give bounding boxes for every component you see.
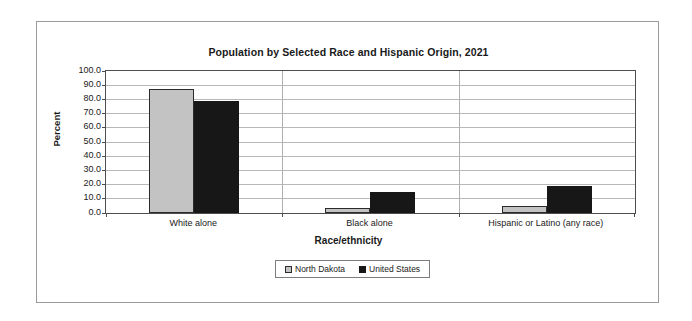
bars-layer <box>106 71 635 213</box>
x-axis-tick-mark <box>106 213 107 217</box>
plot-area <box>105 70 636 214</box>
y-axis-tick-label: 20.0 <box>59 179 101 188</box>
y-axis-tick-label: 100.0 <box>59 65 101 74</box>
bar <box>149 89 194 212</box>
y-axis-tick-label: 10.0 <box>59 193 101 202</box>
y-axis-tick-label: 40.0 <box>59 150 101 159</box>
y-axis-tick-label: 90.0 <box>59 79 101 88</box>
chart-title: Population by Selected Race and Hispanic… <box>37 46 660 58</box>
x-axis-tick-label: White alone <box>169 218 217 228</box>
y-axis-tick-label: 70.0 <box>59 108 101 117</box>
legend-label: North Dakota <box>295 264 345 274</box>
y-axis-tick-label: 60.0 <box>59 122 101 131</box>
x-axis-tick-labels: White aloneBlack aloneHispanic or Latino… <box>105 218 634 232</box>
legend-label: United States <box>369 264 420 274</box>
y-axis-tick-label: 30.0 <box>59 164 101 173</box>
y-axis-tick-label: 50.0 <box>59 136 101 145</box>
bar-group <box>459 71 635 213</box>
chart-legend: North DakotaUnited States <box>275 260 430 278</box>
legend-entry: North Dakota <box>285 264 345 274</box>
bar-group <box>106 71 282 213</box>
bar <box>325 208 370 213</box>
bar <box>502 206 547 212</box>
bar-group <box>282 71 458 213</box>
x-axis-tick-mark <box>282 213 283 217</box>
x-axis-tick-label: Black alone <box>346 218 393 228</box>
legend-entry: United States <box>359 264 420 274</box>
x-axis-tick-label: Hispanic or Latino (any race) <box>488 218 603 228</box>
bar <box>194 101 239 212</box>
chart-figure-frame: Population by Selected Race and Hispanic… <box>36 21 659 303</box>
y-axis-tick-label: 80.0 <box>59 93 101 102</box>
x-axis-title: Race/ethnicity <box>37 235 660 246</box>
legend-swatch-icon <box>359 266 366 273</box>
bar <box>370 192 415 212</box>
x-axis-tick-mark <box>634 213 635 217</box>
bar <box>547 186 592 213</box>
y-axis-tick-label: 0.0 <box>59 207 101 216</box>
legend-swatch-icon <box>285 266 292 273</box>
x-axis-tick-mark <box>459 213 460 217</box>
y-axis-tick-labels: 100.090.080.070.060.050.040.030.020.010.… <box>59 65 101 211</box>
